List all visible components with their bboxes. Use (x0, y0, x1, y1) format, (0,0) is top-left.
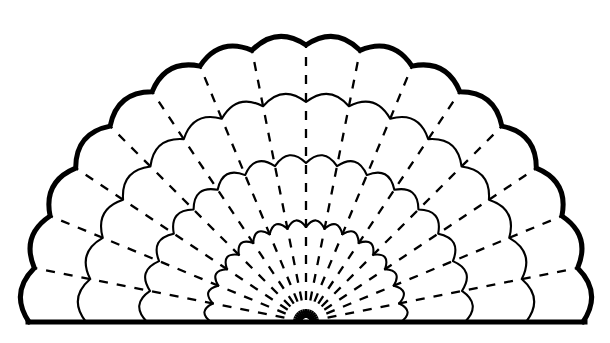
fan-diagram-svg (0, 0, 610, 343)
fan-diagram-canvas: Semicircular folding fan with scalloped … (0, 0, 610, 343)
